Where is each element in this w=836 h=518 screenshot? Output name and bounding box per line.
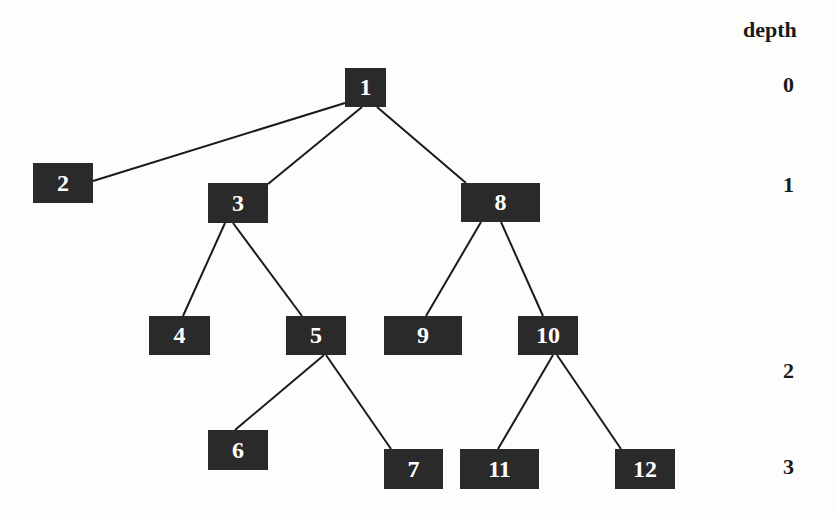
edge-1-2 bbox=[93, 103, 345, 181]
tree-node-10: 10 bbox=[518, 316, 578, 355]
edge-10-11 bbox=[498, 355, 553, 449]
tree-node-9: 9 bbox=[384, 316, 462, 355]
edge-3-5 bbox=[233, 223, 302, 316]
tree-node-11: 11 bbox=[460, 449, 539, 489]
depth-level-1: 1 bbox=[783, 172, 794, 198]
depth-level-3: 3 bbox=[783, 454, 794, 480]
depth-level-2: 2 bbox=[783, 358, 794, 384]
tree-node-6: 6 bbox=[208, 430, 268, 470]
tree-node-8: 8 bbox=[461, 183, 540, 222]
tree-node-7: 7 bbox=[384, 449, 443, 489]
tree-node-2: 2 bbox=[33, 163, 93, 203]
tree-node-5: 5 bbox=[286, 316, 346, 355]
edge-10-12 bbox=[557, 355, 621, 449]
edge-5-7 bbox=[326, 355, 391, 449]
tree-edges bbox=[0, 0, 836, 518]
depth-level-0: 0 bbox=[783, 72, 794, 98]
tree-node-12: 12 bbox=[615, 449, 675, 489]
edge-8-10 bbox=[501, 222, 543, 316]
depth-header: depth bbox=[743, 17, 797, 43]
tree-node-1: 1 bbox=[345, 68, 386, 107]
edge-1-8 bbox=[377, 107, 466, 183]
edge-1-3 bbox=[268, 107, 362, 184]
edge-5-6 bbox=[235, 355, 324, 430]
tree-node-4: 4 bbox=[149, 316, 210, 355]
tree-node-3: 3 bbox=[208, 183, 268, 223]
edge-3-4 bbox=[183, 223, 225, 316]
edge-8-9 bbox=[426, 222, 481, 316]
